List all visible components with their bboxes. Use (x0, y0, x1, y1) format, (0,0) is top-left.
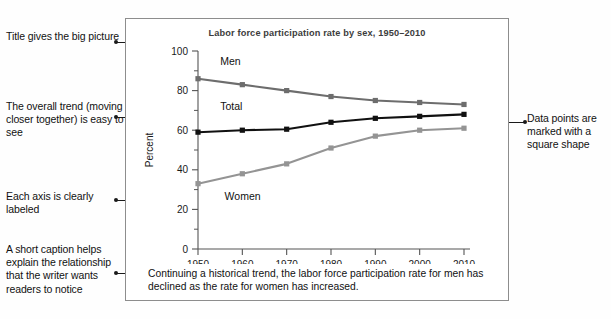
series-line-women (198, 128, 464, 183)
data-point-marker (373, 116, 378, 121)
data-point-marker (328, 145, 333, 150)
x-axis-tick-label: 2010 (453, 259, 476, 264)
data-point-marker (195, 76, 200, 81)
data-point-marker (195, 130, 200, 135)
data-point-marker (240, 171, 245, 176)
data-point-marker (284, 161, 289, 166)
data-point-marker (417, 128, 422, 133)
x-axis-tick-label: 1950 (187, 259, 210, 264)
page-root: Title gives the big picture The overall … (0, 0, 611, 319)
data-point-marker (461, 102, 466, 107)
annotation-caption-note: A short caption helps explain the relati… (6, 243, 124, 296)
figure-frame: Labor force participation rate by sex, 1… (125, 18, 509, 301)
annotation-axis-note: Each axis is clearly labeled (6, 190, 124, 216)
figure-caption: Continuing a historical trend, the labor… (148, 267, 488, 293)
y-axis-tick-label: 0 (182, 244, 188, 255)
data-point-marker (240, 128, 245, 133)
data-point-marker (417, 114, 422, 119)
series-label-women: Women (225, 190, 261, 202)
data-point-marker (240, 82, 245, 87)
data-point-marker (461, 112, 466, 117)
x-axis-tick-label: 1980 (320, 259, 343, 264)
x-axis-tick-label: 1970 (276, 259, 299, 264)
chart-plot-area: 0204060801001950196019701980199020002010… (126, 19, 510, 264)
page-bottom-strip (0, 309, 611, 319)
annotation-marker-note: Data points are marked with a square sha… (527, 112, 611, 152)
y-axis-tick-label: 60 (177, 125, 189, 136)
data-point-marker (328, 120, 333, 125)
data-point-marker (373, 98, 378, 103)
y-axis-tick-label: 80 (177, 85, 189, 96)
series-label-men: Men (220, 55, 241, 67)
y-axis-title: Percent (144, 133, 155, 168)
series-label-total: Total (220, 100, 242, 112)
x-axis-tick-label: 2000 (409, 259, 432, 264)
annotation-trend-note: The overall trend (moving closer togethe… (6, 100, 124, 140)
y-axis-tick-label: 20 (177, 204, 189, 215)
annotation-title-note: Title gives the big picture (6, 30, 124, 43)
x-axis-tick-label: 1960 (231, 259, 254, 264)
y-axis-tick-label: 100 (171, 46, 188, 57)
data-point-marker (373, 134, 378, 139)
data-point-marker (195, 181, 200, 186)
data-point-marker (328, 94, 333, 99)
y-axis-tick-label: 40 (177, 164, 189, 175)
data-point-marker (284, 88, 289, 93)
data-point-marker (284, 127, 289, 132)
x-axis-tick-label: 1990 (364, 259, 387, 264)
data-point-marker (461, 126, 466, 131)
data-point-marker (417, 100, 422, 105)
